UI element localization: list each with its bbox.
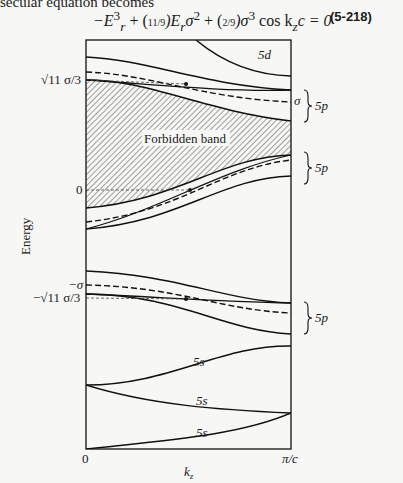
band-label-5s-bottom: 5s (196, 425, 208, 440)
band-structure-diagram: Forbidden band √11 σ/3 0 −σ −√11 σ/3 Ene… (0, 0, 403, 483)
band-5s-top (86, 346, 291, 385)
y-axis-label: Energy (18, 217, 33, 255)
forbidden-band-label: Forbidden band (144, 131, 226, 146)
band-5s-middle (86, 385, 291, 413)
bracket-5p-upper (304, 90, 312, 122)
y-tick-sqrt11-bottom: −√11 σ/3 (33, 290, 80, 305)
band-5d-curve (196, 40, 291, 76)
band-label-5s-top: 5s (193, 354, 205, 369)
band-label-5s-middle: 5s (196, 393, 208, 408)
y-tick-zero: 0 (76, 182, 83, 197)
band-label-5p-upper: 5p (315, 98, 329, 113)
x-axis-sub: z (189, 471, 194, 481)
band-label-5d: 5d (258, 47, 272, 62)
x-axis-label: kz (184, 464, 194, 481)
right-tick-sigma: σ (294, 93, 301, 108)
bracket-5p-middle (304, 152, 312, 184)
band-label-5p-lower: 5p (315, 310, 329, 325)
x-tick-zero: 0 (82, 451, 89, 466)
band-label-5p-middle: 5p (315, 160, 329, 175)
band-5s-bottom (86, 413, 291, 449)
bracket-5p-lower (304, 302, 312, 334)
y-tick-sqrt11-top: √11 σ/3 (41, 72, 81, 87)
x-tick-pi-c: π/c (282, 451, 298, 466)
